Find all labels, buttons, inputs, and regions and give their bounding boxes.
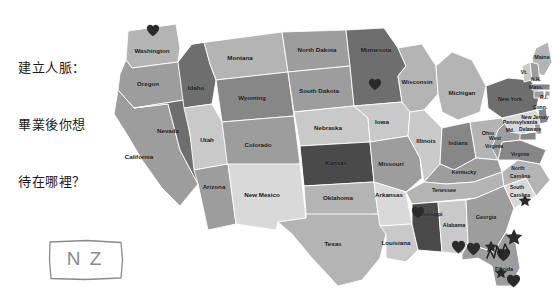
label-new-york: New York [498, 96, 522, 102]
state-minnesota[interactable] [346, 28, 406, 106]
label-illinois: Illinois [416, 137, 436, 144]
label-nevada: Nevada [157, 127, 180, 134]
label-oklahoma: Oklahoma [323, 194, 353, 201]
label-washington: Washington [134, 47, 169, 54]
label-kentucky: Kentucky [452, 169, 476, 175]
label-massachusetts: Mass. [529, 84, 544, 90]
label-west-virginia-2: Virginia [485, 143, 503, 149]
label-utah: Utah [200, 136, 214, 143]
label-vermont: Vt. [521, 69, 528, 75]
label-idaho: Idaho [188, 84, 205, 91]
label-south-carolina-1: South [510, 184, 524, 190]
label-texas: Texas [324, 240, 342, 247]
state-michigan[interactable] [436, 52, 486, 120]
label-delaware: Delaware [519, 126, 541, 132]
label-alabama: Alabama [443, 222, 466, 228]
label-connecticut: Conn. [533, 104, 548, 110]
label-california: California [125, 153, 154, 160]
label-maine: Maine [534, 54, 549, 60]
label-iowa: Iowa [375, 118, 389, 125]
label-colorado: Colorado [244, 141, 271, 148]
us-map[interactable]: Washington Oregon Idaho Montana Wyoming … [106, 18, 553, 293]
label-arkansas: Arkansas [375, 191, 403, 198]
label-arizona: Arizona [203, 183, 226, 190]
label-new-hampshire: N.H. [531, 76, 542, 82]
label-montana: Montana [227, 54, 253, 61]
label-tennessee: Tenessee [432, 187, 456, 193]
label-south-dakota: South Dakota [299, 87, 339, 94]
label-north-carolina-1: North [511, 165, 524, 171]
offshore-star-marker-wrapper[interactable] [505, 228, 523, 246]
label-oregon: Oregon [137, 80, 159, 87]
star-marker-offshore[interactable] [506, 229, 523, 245]
label-west-virginia-1: West [489, 135, 501, 141]
label-new-mexico: New Mexico [244, 191, 280, 198]
label-wisconsin: Wisconsin [402, 78, 433, 85]
label-nebraska: Nebraska [314, 124, 342, 131]
label-minnesota: Minnesota [361, 46, 392, 53]
label-new-jersey: New Jersey [521, 114, 549, 120]
nz-label: N Z [67, 248, 104, 269]
label-louisiana: Louisiana [382, 239, 411, 246]
label-kansas: Kansas [325, 159, 348, 166]
label-south-carolina-2: Carolina [510, 192, 530, 198]
label-rhode-island: R.I. [540, 94, 548, 100]
label-indiana: Indiana [449, 140, 469, 146]
slide-canvas: 建立人脈： 畢業後你想 待在哪裡？ N Z [0, 0, 553, 302]
state-texas[interactable] [278, 214, 386, 286]
label-north-carolina-2: Carolina [510, 173, 530, 179]
label-georgia: Georgia [476, 214, 497, 220]
label-michigan: Michigan [449, 89, 476, 96]
label-missouri: Missouri [378, 160, 404, 167]
label-wyoming: Wyoming [238, 94, 266, 101]
label-north-dakota: North Dakota [298, 46, 337, 53]
label-virginia: Virginia [511, 151, 529, 157]
label-maryland: Md. [506, 127, 515, 133]
